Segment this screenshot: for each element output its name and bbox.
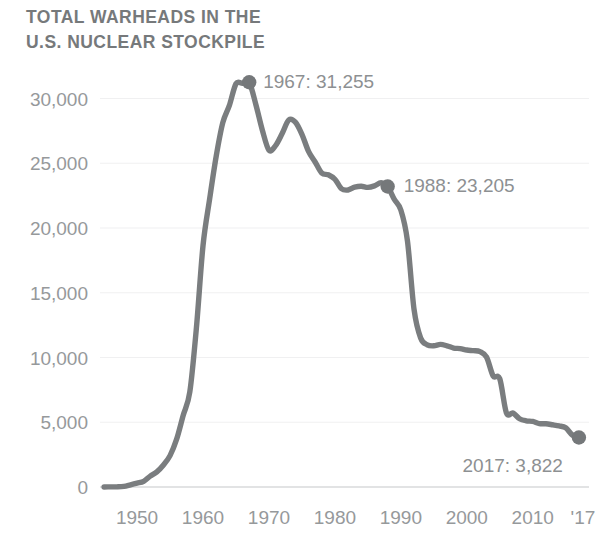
data-point-marker [380, 179, 394, 193]
data-point-marker [572, 430, 586, 444]
y-tick-label: 10,000 [30, 348, 88, 369]
chart-figure: TOTAL WARHEADS IN THE U.S. NUCLEAR STOCK… [0, 0, 595, 546]
x-tick-label: 1980 [314, 507, 356, 528]
y-tick-label: 5,000 [40, 412, 88, 433]
annotation-label: 2017: 3,822 [463, 455, 563, 476]
x-tick-label: 2010 [512, 507, 554, 528]
y-tick-label: 30,000 [30, 89, 88, 110]
y-axis-ticks: 05,00010,00015,00020,00025,00030,000 [30, 89, 88, 499]
y-tick-label: 20,000 [30, 218, 88, 239]
x-tick-label: 1950 [116, 507, 158, 528]
gridlines [100, 99, 589, 488]
annotation-label: 1967: 31,255 [263, 71, 374, 92]
stockpile-line [104, 81, 579, 487]
x-tick-label: 2000 [446, 507, 488, 528]
y-tick-label: 0 [77, 477, 88, 498]
y-tick-label: 15,000 [30, 283, 88, 304]
x-axis-ticks: 1950196019701980199020002010'17 [116, 507, 595, 528]
x-tick-label: 1990 [380, 507, 422, 528]
data-point-marker [242, 75, 256, 89]
line-chart-plot: 05,00010,00015,00020,00025,00030,000 195… [0, 0, 595, 546]
annotation-markers [242, 75, 586, 445]
x-tick-label: '17 [571, 507, 595, 528]
x-tick-label: 1970 [248, 507, 290, 528]
x-tick-label: 1960 [182, 507, 224, 528]
y-tick-label: 25,000 [30, 153, 88, 174]
annotation-label: 1988: 23,205 [404, 175, 515, 196]
